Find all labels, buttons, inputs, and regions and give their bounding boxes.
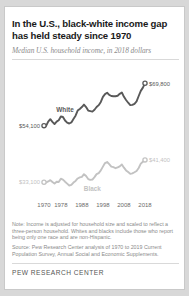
chart-title: In the U.S., black-white income gap has … [12, 14, 179, 41]
endpoint-marker-white-start [42, 124, 46, 128]
series-label-white: White [56, 106, 74, 113]
chart-card-inner: In the U.S., black-white income gap has … [12, 14, 179, 284]
value-label-white-end: $69,800 [149, 81, 170, 87]
chart-card: In the U.S., black-white income gap has … [4, 6, 185, 290]
endpoint-marker-black-start [42, 180, 46, 184]
header-divider [12, 59, 179, 60]
x-tick-1988: 1988 [75, 202, 88, 208]
value-label-white-start: $54,100 [19, 123, 40, 129]
value-label-black-start: $33,100 [19, 180, 40, 186]
line-chart-svg: $54,100$69,800$33,100$41,400WhiteBlack [12, 62, 179, 202]
line-series-black [44, 160, 145, 186]
chart-subtitle: Median U.S. household income, in 2018 do… [12, 46, 179, 55]
x-tick-1998: 1998 [96, 202, 109, 208]
value-label-black-end: $41,400 [149, 157, 170, 163]
chart-note: Note: Income is adjusted for household s… [12, 221, 179, 241]
x-tick-1978: 1978 [54, 202, 67, 208]
x-tick-1970: 1970 [37, 202, 50, 208]
endpoint-marker-black-end [143, 158, 147, 162]
pew-research-center-logo: PEW RESEARCH CENTER [12, 269, 179, 276]
chart-plot-area: $54,100$69,800$33,100$41,400WhiteBlack [12, 62, 179, 202]
series-label-black: Black [84, 185, 101, 192]
x-tick-2008: 2008 [117, 202, 130, 208]
x-axis-tick-labels: 197019781988199820082018 [12, 202, 179, 214]
footer-divider [12, 263, 179, 264]
chart-source: Source: Pew Research Center analysis of … [12, 244, 179, 257]
endpoint-marker-white-end [143, 81, 147, 85]
x-tick-2018: 2018 [138, 202, 151, 208]
